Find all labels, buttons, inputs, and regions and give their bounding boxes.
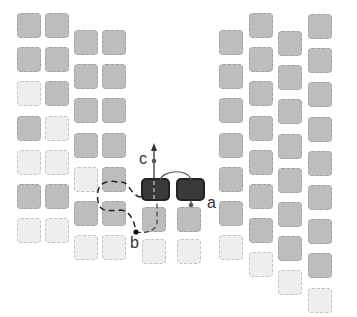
center-cluster-cell	[177, 207, 201, 232]
left-cluster-cell	[102, 30, 126, 55]
left-cluster-cell	[17, 81, 41, 106]
right-cluster-cell	[278, 236, 302, 261]
left-cluster-cell	[102, 64, 126, 89]
right-cluster-cell	[278, 168, 302, 193]
right-cluster-cell	[219, 235, 243, 260]
right-cluster-cell	[308, 82, 332, 107]
right-cluster-cell	[278, 202, 302, 227]
label-b: b	[130, 235, 139, 251]
left-cluster-cell	[45, 150, 69, 175]
right-cluster-cell	[219, 133, 243, 158]
right-cluster-cell	[219, 64, 243, 89]
left-cluster-cell	[45, 184, 69, 209]
right-cluster-cell	[249, 13, 273, 38]
left-cluster-cell	[17, 150, 41, 175]
dark-block-1	[141, 178, 170, 201]
right-cluster-cell	[249, 252, 273, 277]
center-cluster-cell	[177, 239, 201, 264]
left-cluster-cell	[45, 13, 69, 38]
left-cluster-cell	[102, 235, 126, 260]
right-cluster-cell	[249, 47, 273, 72]
right-cluster-cell	[249, 116, 273, 141]
left-cluster-cell	[74, 235, 98, 260]
point-c-dot	[152, 159, 157, 164]
right-cluster-cell	[219, 30, 243, 55]
left-cluster-cell	[74, 64, 98, 89]
diagram-canvas: c a b	[0, 0, 357, 317]
left-cluster-cell	[45, 47, 69, 72]
right-cluster-cell	[219, 201, 243, 226]
right-cluster-cell	[249, 218, 273, 243]
right-cluster-cell	[308, 48, 332, 73]
right-cluster-cell	[308, 288, 332, 313]
left-cluster-cell	[74, 30, 98, 55]
left-cluster-cell	[74, 98, 98, 123]
arrow-c-head-icon	[151, 143, 157, 151]
left-cluster-cell	[102, 133, 126, 158]
right-cluster-cell	[278, 134, 302, 159]
right-cluster-cell	[249, 150, 273, 175]
label-a: a	[207, 195, 216, 211]
right-cluster-cell	[278, 31, 302, 56]
left-cluster-cell	[17, 13, 41, 38]
label-c: c	[139, 151, 147, 167]
left-cluster-cell	[74, 133, 98, 158]
left-cluster-cell	[102, 201, 126, 226]
center-cluster-cell	[142, 239, 166, 264]
right-cluster-cell	[219, 167, 243, 192]
left-cluster-cell	[45, 116, 69, 141]
left-cluster-cell	[102, 98, 126, 123]
right-cluster-cell	[278, 99, 302, 124]
right-cluster-cell	[278, 270, 302, 295]
left-cluster-cell	[17, 47, 41, 72]
left-cluster-cell	[17, 184, 41, 209]
right-cluster-cell	[278, 65, 302, 90]
left-cluster-cell	[74, 201, 98, 226]
left-cluster-cell	[17, 116, 41, 141]
left-cluster-cell	[102, 167, 126, 192]
right-cluster-cell	[219, 98, 243, 123]
left-cluster-cell	[45, 81, 69, 106]
right-cluster-cell	[308, 185, 332, 210]
right-cluster-cell	[308, 151, 332, 176]
center-cluster-cell	[142, 207, 166, 232]
right-cluster-cell	[308, 117, 332, 142]
right-cluster-cell	[308, 219, 332, 244]
left-cluster-cell	[45, 218, 69, 243]
left-cluster-cell	[17, 218, 41, 243]
right-cluster-cell	[249, 81, 273, 106]
right-cluster-cell	[249, 184, 273, 209]
left-cluster-cell	[74, 167, 98, 192]
dark-block-2	[176, 178, 205, 201]
right-cluster-cell	[308, 14, 332, 39]
right-cluster-cell	[308, 253, 332, 278]
